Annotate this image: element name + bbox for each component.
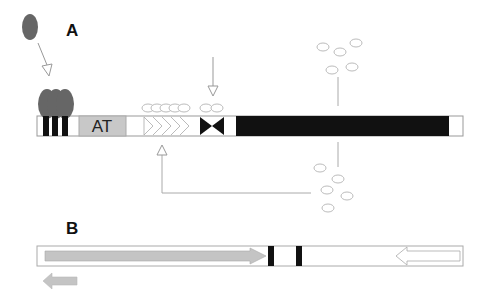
- small-reverse-arrow-icon: [43, 273, 77, 289]
- at-box-label: AT: [92, 117, 112, 136]
- repeat-binding-ovals: [142, 104, 190, 112]
- bound-proteins-icon: [38, 89, 74, 119]
- released-product-top: [317, 39, 362, 74]
- binding-arrow-icon: [38, 43, 52, 76]
- feedback-arrow-icon: [157, 145, 311, 193]
- free-protein-icon: [22, 14, 38, 40]
- released-product-bottom: [314, 164, 353, 212]
- diagram-canvas: A AT: [0, 0, 488, 301]
- panel-b-label: B: [66, 219, 78, 238]
- binding-sites: [43, 116, 68, 136]
- down-arrow-icon: [208, 57, 218, 96]
- b-site-2: [296, 246, 302, 266]
- inverted-repeat-ovals: [200, 104, 223, 112]
- b-site-1: [268, 246, 274, 266]
- panel-a-label: A: [66, 21, 78, 40]
- coding-region: [236, 116, 449, 136]
